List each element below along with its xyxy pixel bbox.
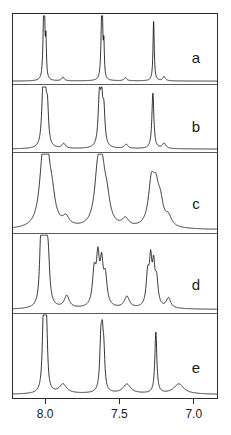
panel-letter-b: b (192, 118, 200, 135)
panel-letter-a: a (192, 49, 201, 66)
panel-letter-c: c (192, 195, 200, 212)
spectra-plot: 8.07.57.0 abcde (0, 0, 231, 435)
axis-tick-label: 7.0 (185, 407, 202, 421)
spectrum-trace-e (13, 315, 218, 396)
panel-traces (13, 16, 218, 396)
spectrum-trace-d (13, 235, 218, 310)
axis-tick-label: 7.5 (111, 407, 128, 421)
nmr-figure: 8.07.57.0 abcde (0, 0, 231, 435)
axis-tick-label: 8.0 (37, 407, 54, 421)
panel-letter-d: d (192, 276, 200, 293)
axis-ticks (45, 399, 194, 404)
plot-frame (13, 14, 218, 399)
spectrum-trace-c (13, 154, 218, 230)
panel-letters: abcde (192, 49, 201, 376)
panel-dividers (13, 85, 218, 314)
spectrum-trace-a (13, 16, 218, 82)
spectrum-trace-b (13, 87, 218, 150)
axis-tick-labels: 8.07.57.0 (37, 407, 203, 421)
panel-letter-e: e (192, 359, 200, 376)
